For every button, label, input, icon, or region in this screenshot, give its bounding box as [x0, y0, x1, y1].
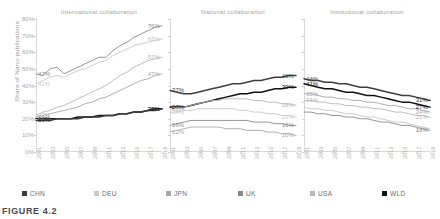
series-end-label: 26%	[148, 106, 160, 112]
y-tick-label: 10%	[22, 132, 34, 138]
y-tick-label: 80%	[22, 16, 34, 22]
legend-item-wld[interactable]: WLD	[382, 190, 406, 197]
series-start-label: 37%	[172, 87, 184, 93]
y-tick	[302, 119, 305, 120]
series-end-label: 16%	[282, 122, 294, 128]
x-tick-label: 2017	[416, 147, 422, 159]
y-tick	[168, 102, 171, 103]
series-end-label: 31%	[416, 97, 428, 103]
line-series-usa	[36, 57, 162, 115]
series-start-label: 47%	[38, 71, 50, 77]
y-tick-label: 50%	[22, 66, 34, 72]
line-series-uk	[36, 26, 162, 76]
legend-swatch-icon	[238, 191, 243, 196]
legend-swatch-icon	[382, 191, 387, 196]
series-lines	[36, 19, 162, 152]
panel-title: International collaboration	[36, 8, 162, 15]
series-end-label: 76%	[148, 23, 160, 29]
series-end-label: 46%	[282, 73, 294, 79]
figure-root: Share of Nano-publications International…	[0, 0, 440, 219]
y-tick-label: 0%	[25, 149, 34, 155]
legend-label: WLD	[390, 190, 406, 197]
x-tick-label: 2001	[36, 147, 42, 159]
line-series-uk	[304, 112, 430, 130]
series-end-label: 28%	[282, 102, 294, 108]
series-start-label: 41%	[306, 81, 318, 87]
legend-item-deu[interactable]: DEU	[94, 190, 117, 197]
y-tick	[302, 135, 305, 136]
series-start-label: 31%	[306, 97, 318, 103]
y-tick	[168, 119, 171, 120]
y-tick	[168, 52, 171, 53]
x-tick-label: 2013	[254, 147, 260, 159]
x-tick-label: 2001	[304, 147, 310, 159]
plot-band: International collaboration 0%10%20%30%4…	[18, 8, 440, 166]
series-start-label: 12%	[172, 129, 184, 135]
x-tick-label: 2005	[64, 147, 70, 159]
series-lines	[304, 19, 430, 152]
x-tick-label: 2003	[318, 147, 324, 159]
series-end-label: 68%	[148, 36, 160, 42]
line-series-wld	[170, 87, 296, 107]
series-start-label: 24%	[172, 109, 184, 115]
line-series-chn	[36, 109, 162, 121]
y-tick	[168, 19, 171, 20]
y-tick	[34, 102, 37, 103]
y-tick-label: 30%	[22, 99, 34, 105]
y-tick	[34, 86, 37, 87]
y-tick	[168, 86, 171, 87]
x-tick-label: 2015	[402, 147, 408, 159]
legend-label: DEU	[102, 190, 117, 197]
panel-title: Institutional collaboration	[304, 8, 430, 15]
series-lines	[170, 19, 296, 152]
series-start-label: 19%	[38, 117, 50, 123]
x-tick-label: 2013	[120, 147, 126, 159]
series-end-label: 10%	[282, 132, 294, 138]
panel-national: National collaboration 20012003200520072…	[170, 8, 296, 166]
legend-swatch-icon	[94, 191, 99, 196]
x-tick-label: 2005	[198, 147, 204, 159]
y-tick	[34, 52, 37, 53]
x-tick-label: 2011	[106, 147, 112, 159]
x-tick-label: 2001	[170, 147, 176, 159]
x-tick-label: 2007	[212, 147, 218, 159]
y-tick-label: 60%	[22, 49, 34, 55]
legend-item-usa[interactable]: USA	[310, 190, 332, 197]
panel-plot-area: 0%10%20%30%40%50%60%70%80%20012003200520…	[36, 19, 162, 152]
legend-swatch-icon	[22, 191, 27, 196]
y-tick-label: 20%	[22, 116, 34, 122]
x-tick-label: 2013	[388, 147, 394, 159]
y-tick	[168, 135, 171, 136]
line-series-uk	[170, 120, 296, 125]
series-end-label: 13%	[416, 127, 428, 133]
series-end-label: 39%	[282, 84, 294, 90]
y-tick	[302, 69, 305, 70]
x-tick-label: 2009	[226, 147, 232, 159]
series-end-label: 21%	[416, 114, 428, 120]
x-tick-label: 2015	[268, 147, 274, 159]
y-tick	[302, 52, 305, 53]
x-tick-label: 2007	[78, 147, 84, 159]
y-tick	[34, 135, 37, 136]
line-series-chn	[170, 76, 296, 94]
legend-item-uk[interactable]: UK	[238, 190, 256, 197]
series-start-label: 35%	[306, 91, 318, 97]
y-tick	[34, 19, 37, 20]
legend-swatch-icon	[166, 191, 171, 196]
legend-item-chn[interactable]: CHN	[22, 190, 45, 197]
panel-plot-area: 2001200320052007200920112013201520172019…	[304, 19, 430, 152]
series-end-label: 57%	[148, 54, 160, 60]
y-tick	[302, 36, 305, 37]
line-series-chn	[304, 79, 430, 101]
x-tick-label: 2009	[360, 147, 366, 159]
x-tick-label: 2011	[240, 147, 246, 159]
panel-title: National collaboration	[170, 8, 296, 15]
legend-label: UK	[246, 190, 256, 197]
y-tick	[168, 36, 171, 37]
line-series-jpn	[36, 74, 162, 117]
legend-item-jpn[interactable]: JPN	[166, 190, 187, 197]
series-start-label: 41%	[38, 81, 50, 87]
x-tick-label: 2003	[184, 147, 190, 159]
x-tick-label: 2009	[92, 147, 98, 159]
y-tick-label: 40%	[22, 83, 34, 89]
